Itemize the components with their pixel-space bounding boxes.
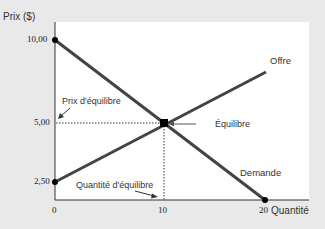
y-axis-label: Prix ($): [3, 12, 35, 22]
chart-svg: [0, 0, 325, 229]
demand-label: Demande: [240, 168, 281, 178]
equilibrium-label: Équilibre: [215, 120, 250, 129]
y-tick-5: 5,00: [34, 118, 50, 127]
eq-price-arrow: [61, 108, 70, 116]
demand-intercept-point: [52, 37, 58, 43]
demand-x-intercept-point: [262, 197, 268, 203]
equilibrium-point: [160, 119, 168, 127]
x-axis-label: Quantité: [271, 206, 309, 216]
x-tick-10: 10: [158, 206, 167, 215]
supply-label: Offre: [270, 56, 291, 66]
eq-quantity-arrow: [135, 191, 154, 196]
x-tick-20: 20: [259, 206, 268, 215]
eq-quantity-label: Quantité d'équilibre: [76, 181, 153, 190]
y-tick-10: 10,00: [27, 35, 47, 44]
y-tick-2-5: 2,50: [34, 177, 50, 186]
eq-price-label: Prix d'équilibre: [62, 97, 121, 106]
supply-intercept-point: [52, 179, 58, 185]
x-tick-0: 0: [52, 206, 57, 215]
eq-quantity-arrowhead: [151, 194, 158, 199]
